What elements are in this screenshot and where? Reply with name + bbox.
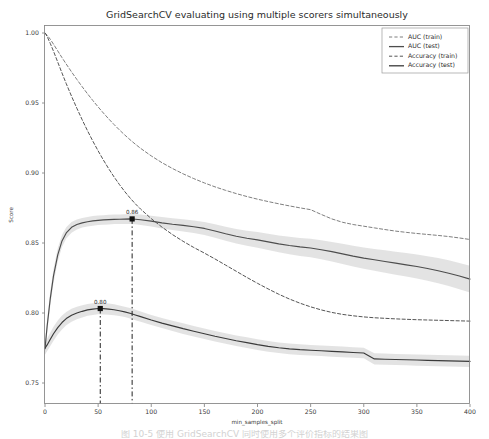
annotation-label-0: 0.86 (126, 209, 139, 215)
legend-label-2[interactable]: Accuracy (train) (408, 52, 457, 60)
x-tick-label-1: 50 (94, 408, 102, 415)
x-tick-label-0: 0 (43, 408, 47, 415)
y-tick-label-4: 0.95 (25, 99, 39, 106)
x-tick-label-4: 200 (252, 408, 264, 415)
x-tick-label-6: 300 (358, 408, 370, 415)
legend-label-3[interactable]: Accuracy (test) (408, 61, 455, 69)
annotation-marker-0 (130, 216, 135, 221)
legend[interactable]: AUC (train)AUC (test)Accuracy (train)Acc… (382, 28, 468, 73)
annotation-label-1: 0.80 (94, 299, 107, 305)
annotation-marker-1 (98, 306, 103, 311)
x-axis-label: min_samples_split (231, 419, 283, 426)
grid-search-cv-figure: GridSearchCV evaluating using multiple s… (0, 0, 489, 439)
legend-label-0[interactable]: AUC (train) (408, 33, 442, 40)
x-tick-label-5: 250 (305, 408, 317, 415)
x-tick-label-3: 150 (198, 408, 210, 415)
x-tick-label-8: 400 (464, 408, 476, 415)
y-axis-label: Score (8, 207, 14, 223)
y-tick-label-5: 1.00 (25, 29, 39, 36)
x-tick-label-2: 100 (145, 408, 157, 415)
y-tick-label-2: 0.85 (25, 239, 39, 246)
y-tick-label-0: 0.75 (25, 379, 39, 386)
x-tick-label-7: 350 (411, 408, 423, 415)
y-tick-label-3: 0.90 (25, 169, 39, 176)
chart-title: GridSearchCV evaluating using multiple s… (106, 9, 408, 20)
legend-label-1[interactable]: AUC (test) (408, 42, 440, 49)
y-tick-label-1: 0.80 (25, 309, 39, 316)
